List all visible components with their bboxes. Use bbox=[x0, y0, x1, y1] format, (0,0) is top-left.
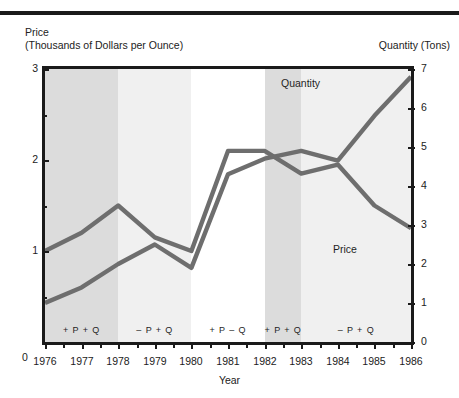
left-axis-tick-label: 3 bbox=[32, 62, 38, 74]
right-axis-title: Quantity (Tons) bbox=[379, 39, 450, 52]
x-axis-tick-label: 1977 bbox=[70, 355, 93, 367]
x-axis-tick-label: 1983 bbox=[289, 355, 312, 367]
plot-inner: Quantity Price + P + Q– P + Q+ P – Q+ P … bbox=[45, 69, 411, 342]
right-axis-tick bbox=[408, 186, 415, 188]
right-axis-tick bbox=[408, 303, 415, 305]
price-line bbox=[45, 151, 411, 251]
x-axis-tick bbox=[228, 343, 230, 349]
x-axis-minor-tick bbox=[210, 343, 212, 348]
right-axis-tick-label: 7 bbox=[421, 62, 427, 74]
x-axis-tick bbox=[374, 343, 376, 349]
right-axis-tick bbox=[408, 225, 415, 227]
x-axis-tick-label: 1979 bbox=[143, 355, 166, 367]
x-axis-tick bbox=[338, 343, 340, 349]
regime-annotation: + P + Q bbox=[45, 325, 118, 335]
x-axis-tick-label: 1986 bbox=[399, 355, 422, 367]
right-axis-tick-label: 0 bbox=[421, 335, 427, 347]
x-axis-tick-label: 1980 bbox=[179, 355, 202, 367]
x-axis-tick bbox=[191, 343, 193, 349]
x-axis-minor-tick bbox=[246, 343, 248, 348]
x-axis-title: Year bbox=[0, 374, 459, 386]
regime-annotation: + P + Q bbox=[265, 325, 302, 335]
x-axis-tick bbox=[301, 343, 303, 349]
x-axis-minor-tick bbox=[100, 343, 102, 348]
x-axis-minor-tick bbox=[63, 343, 65, 348]
left-axis-tick bbox=[42, 160, 49, 162]
x-axis-tick-label: 1985 bbox=[362, 355, 385, 367]
x-axis-tick bbox=[118, 343, 120, 349]
left-axis-tick bbox=[42, 69, 49, 71]
right-axis-tick-label: 3 bbox=[421, 218, 427, 230]
right-axis-tick-label: 1 bbox=[421, 296, 427, 308]
price-series-label: Price bbox=[333, 243, 357, 255]
left-axis-title-line1: Price bbox=[25, 26, 183, 39]
left-axis-tick-label: 1 bbox=[32, 244, 38, 256]
left-axis-minor-tick bbox=[42, 206, 47, 208]
right-axis-tick-label: 6 bbox=[421, 101, 427, 113]
left-axis-minor-tick bbox=[42, 297, 47, 299]
x-axis-tick-label: 1976 bbox=[33, 355, 56, 367]
chart-figure: Price (Thousands of Dollars per Ounce) Q… bbox=[0, 0, 459, 398]
right-axis-tick-label: 4 bbox=[421, 179, 427, 191]
x-axis-tick bbox=[265, 343, 267, 349]
x-axis-minor-tick bbox=[320, 343, 322, 348]
left-axis-tick-label: 2 bbox=[32, 153, 38, 165]
right-axis-tick bbox=[408, 108, 415, 110]
quantity-line bbox=[45, 77, 411, 303]
left-axis-title: Price (Thousands of Dollars per Ounce) bbox=[25, 26, 183, 52]
x-axis-minor-tick bbox=[137, 343, 139, 348]
x-axis-minor-tick bbox=[356, 343, 358, 348]
regime-annotation: – P + Q bbox=[301, 325, 411, 335]
x-axis-minor-tick bbox=[283, 343, 285, 348]
right-axis-tick bbox=[408, 69, 415, 71]
x-axis-minor-tick bbox=[173, 343, 175, 348]
x-axis-tick bbox=[45, 343, 47, 349]
x-axis-tick bbox=[411, 343, 413, 349]
right-axis-tick-label: 5 bbox=[421, 140, 427, 152]
plot-area: Quantity Price + P + Q– P + Q+ P – Q+ P … bbox=[42, 66, 414, 345]
left-axis-minor-tick bbox=[42, 115, 47, 117]
x-axis-minor-tick bbox=[393, 343, 395, 348]
left-axis-zero-label: 0 bbox=[22, 351, 28, 363]
regime-annotation: – P + Q bbox=[118, 325, 191, 335]
regime-annotation: + P – Q bbox=[191, 325, 264, 335]
x-axis-tick-label: 1984 bbox=[326, 355, 349, 367]
left-axis-title-line2: (Thousands of Dollars per Ounce) bbox=[25, 39, 183, 52]
x-axis-tick-label: 1982 bbox=[253, 355, 276, 367]
quantity-series-label: Quantity bbox=[281, 77, 320, 89]
x-axis-tick bbox=[155, 343, 157, 349]
x-axis-tick-label: 1978 bbox=[106, 355, 129, 367]
x-axis-tick bbox=[82, 343, 84, 349]
top-rule-divider bbox=[0, 11, 459, 15]
right-axis-tick bbox=[408, 147, 415, 149]
series-svg bbox=[45, 69, 411, 342]
right-axis-tick bbox=[408, 264, 415, 266]
x-axis-tick-label: 1981 bbox=[216, 355, 239, 367]
right-axis-tick-label: 2 bbox=[421, 257, 427, 269]
left-axis-tick bbox=[42, 251, 49, 253]
